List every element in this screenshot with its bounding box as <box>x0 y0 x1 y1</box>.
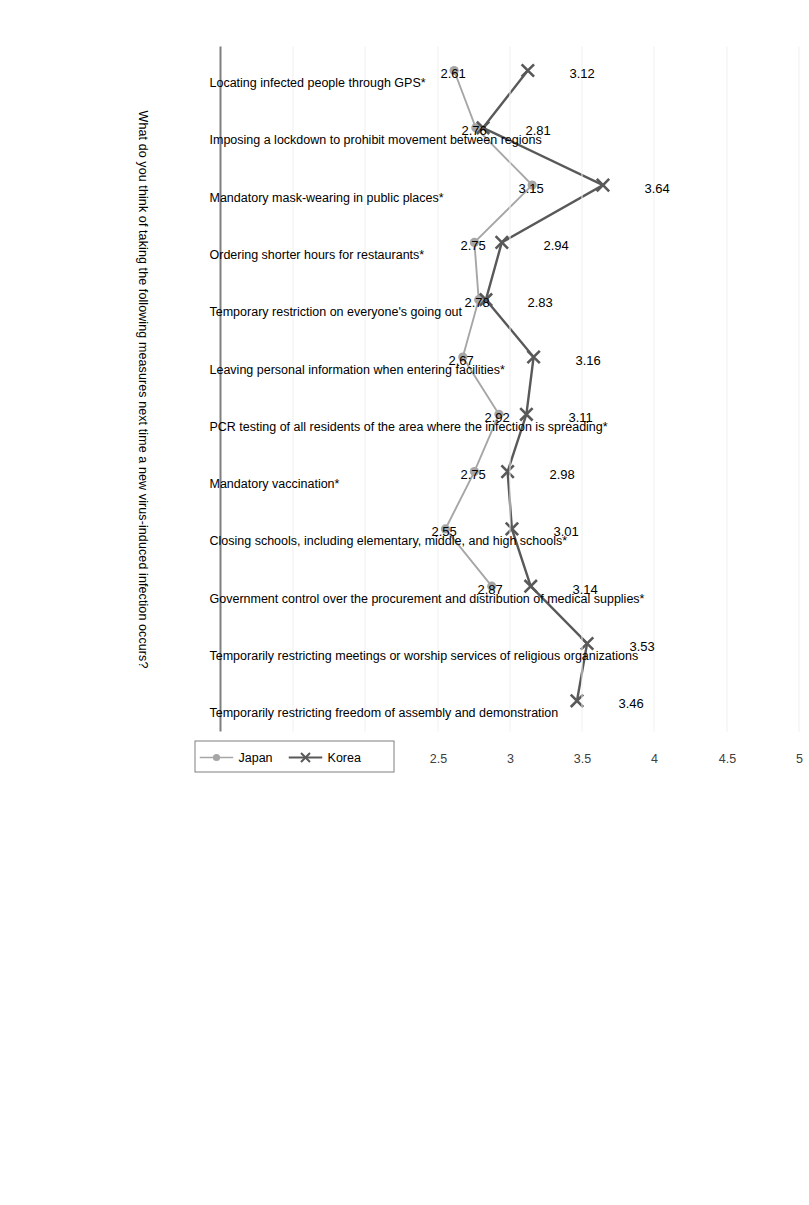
data-label: 2.94 <box>543 237 568 252</box>
data-point-marker-x-icon <box>596 178 608 190</box>
rotated-chart-stage: What do you think of taking the followin… <box>0 0 809 1205</box>
data-label: 3.11 <box>568 409 592 424</box>
gridline <box>509 46 510 731</box>
data-label: 2.75 <box>460 466 485 481</box>
category-label: Locating infected people through GPS* <box>209 75 425 89</box>
category-label: Temporarily restricting meetings or wors… <box>209 648 638 662</box>
gridline <box>726 46 727 731</box>
japan-legend-marker-icon <box>199 750 233 764</box>
data-label: 2.55 <box>431 523 456 538</box>
data-label: 2.87 <box>477 581 502 596</box>
data-label: 2.76 <box>461 122 486 137</box>
y-tick-label: 3.5 <box>562 751 602 765</box>
category-label: Ordering shorter hours for restaurants* <box>209 247 424 261</box>
gridline <box>798 46 799 731</box>
data-label: 3.64 <box>644 180 669 195</box>
data-label: 3.12 <box>569 65 594 80</box>
category-label: Mandatory vaccination* <box>209 476 339 490</box>
data-label: 3.16 <box>575 352 600 367</box>
data-label: 2.61 <box>440 65 465 80</box>
category-label: Mandatory mask-wearing in public places* <box>209 190 443 204</box>
category-label: Temporarily restricting freedom of assem… <box>209 705 558 719</box>
data-label: 2.78 <box>464 294 489 309</box>
data-point-marker-x-icon <box>521 64 533 76</box>
chart-root: What do you think of taking the followin… <box>0 0 809 1205</box>
data-label: 2.83 <box>527 294 552 309</box>
legend-label-korea: Korea <box>327 750 360 764</box>
data-label: 2.92 <box>484 409 509 424</box>
y-tick-label: 2.5 <box>418 751 458 765</box>
category-label: PCR testing of all residents of the area… <box>209 419 607 433</box>
data-label: 3.15 <box>518 180 543 195</box>
series-line-korea <box>483 70 603 700</box>
legend: Japan Korea <box>194 740 394 772</box>
legend-label-japan: Japan <box>238 750 272 764</box>
data-label: 2.98 <box>549 466 574 481</box>
legend-entry-japan[interactable]: Japan <box>199 750 272 764</box>
korea-legend-marker-icon <box>288 750 322 764</box>
gridline <box>365 46 366 731</box>
legend-entry-korea[interactable]: Korea <box>288 750 360 764</box>
data-label: 3.53 <box>629 638 654 653</box>
gridline <box>654 46 655 731</box>
gridline <box>581 46 582 731</box>
category-label: Imposing a lockdown to prohibit movement… <box>209 132 541 146</box>
y-tick-label: 4.5 <box>707 751 747 765</box>
gridline <box>437 46 438 731</box>
data-label: 3.46 <box>618 695 643 710</box>
y-tick-label: 3 <box>490 751 530 765</box>
category-label: Closing schools, including elementary, m… <box>209 533 567 547</box>
data-label: 2.67 <box>448 352 473 367</box>
data-label: 3.14 <box>572 581 597 596</box>
data-label: 2.75 <box>460 237 485 252</box>
series-line-japan <box>445 70 532 586</box>
y-tick-label: 5 <box>779 751 809 765</box>
y-tick-label: 4 <box>635 751 675 765</box>
gridline <box>292 46 293 731</box>
value-axis-line <box>219 46 221 731</box>
data-label: 2.81 <box>525 122 550 137</box>
data-label: 3.01 <box>553 523 578 538</box>
category-label: Temporary restriction on everyone's goin… <box>209 304 462 318</box>
